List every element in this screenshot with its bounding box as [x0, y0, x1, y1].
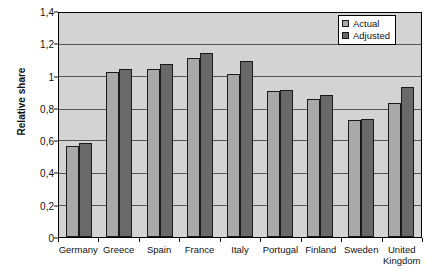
- category-label: Sweden: [341, 244, 381, 266]
- bar-actual: [106, 72, 119, 237]
- bar-groups: [59, 13, 421, 237]
- y-tick-label: 0,4: [18, 168, 54, 179]
- bar-actual: [388, 103, 401, 237]
- y-tick-label: 1,2: [18, 39, 54, 50]
- y-tick-mark: [54, 44, 58, 45]
- category-labels: GermanyGreeceSpainFranceItalyPortugalFin…: [58, 244, 422, 266]
- bar-group: [300, 13, 340, 237]
- legend-item: Actual: [342, 18, 390, 29]
- category-tick-mark: [139, 238, 140, 242]
- bar-adjusted: [240, 61, 253, 237]
- bar-actual: [267, 91, 280, 237]
- bar-actual: [307, 99, 320, 237]
- bar-group: [180, 13, 220, 237]
- category-label: Portugal: [260, 244, 300, 266]
- category-tick-mark: [98, 238, 99, 242]
- category-tick-mark: [260, 238, 261, 242]
- y-tick-label: 0,6: [18, 136, 54, 147]
- category-label: France: [179, 244, 219, 266]
- category-tick-mark: [301, 238, 302, 242]
- y-tick-mark: [54, 76, 58, 77]
- category-tick-mark: [58, 238, 59, 242]
- legend-item: Adjusted: [342, 30, 390, 41]
- legend-label: Actual: [353, 18, 379, 29]
- category-label: Finland: [301, 244, 341, 266]
- y-tick-mark: [54, 238, 58, 239]
- category-tick-mark: [422, 238, 423, 242]
- y-tick-label: 1,4: [18, 7, 54, 18]
- bar-actual: [348, 120, 361, 237]
- y-axis-ticks: 00,20,40,60,811,21,4: [18, 0, 54, 279]
- bar-actual: [227, 74, 240, 237]
- bar-adjusted: [160, 64, 173, 237]
- bar-group: [139, 13, 179, 237]
- legend-swatch-adjusted: [342, 32, 349, 39]
- bar-adjusted: [401, 87, 414, 237]
- category-tick-mark: [220, 238, 221, 242]
- bar-adjusted: [200, 53, 213, 237]
- bar-group: [341, 13, 381, 237]
- legend-label: Adjusted: [353, 30, 390, 41]
- y-tick-label: 0,8: [18, 103, 54, 114]
- category-label: Greece: [98, 244, 138, 266]
- bar-chart: Relative share 00,20,40,60,811,21,4 Germ…: [0, 0, 426, 279]
- bar-actual: [187, 58, 200, 237]
- y-tick-mark: [54, 205, 58, 206]
- bar-adjusted: [320, 95, 333, 237]
- category-label: UnitedKingdom: [382, 244, 422, 266]
- y-tick-mark: [54, 12, 58, 13]
- y-tick-label: 0,2: [18, 200, 54, 211]
- y-tick-label: 1: [18, 71, 54, 82]
- bar-adjusted: [79, 143, 92, 237]
- y-tick-mark: [54, 173, 58, 174]
- category-tick-mark: [382, 238, 383, 242]
- legend: ActualAdjusted: [338, 15, 396, 45]
- bar-adjusted: [280, 90, 293, 237]
- bar-adjusted: [361, 119, 374, 237]
- bar-group: [59, 13, 99, 237]
- y-tick-mark: [54, 108, 58, 109]
- category-label: Spain: [139, 244, 179, 266]
- category-label: Germany: [58, 244, 98, 266]
- bar-adjusted: [119, 69, 132, 237]
- category-tick-mark: [341, 238, 342, 242]
- category-axis: GermanyGreeceSpainFranceItalyPortugalFin…: [58, 238, 422, 279]
- plot-area: [58, 12, 422, 238]
- legend-swatch-actual: [342, 20, 349, 27]
- y-tick-label: 0: [18, 233, 54, 244]
- y-tick-mark: [54, 141, 58, 142]
- bar-actual: [66, 146, 79, 237]
- bar-group: [220, 13, 260, 237]
- category-tick-mark: [179, 238, 180, 242]
- bar-group: [260, 13, 300, 237]
- category-label: Italy: [220, 244, 260, 266]
- bar-actual: [147, 69, 160, 237]
- bar-group: [99, 13, 139, 237]
- bar-group: [381, 13, 421, 237]
